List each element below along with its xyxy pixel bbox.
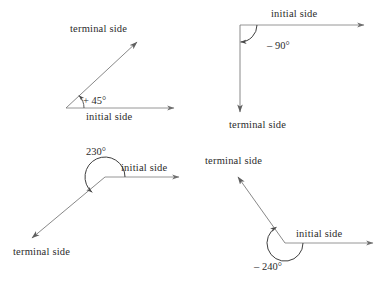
terminal-side-label-2: terminal side — [229, 119, 286, 130]
diagram-negative-240 — [238, 177, 373, 261]
initial-side-label-3: initial side — [121, 162, 167, 173]
terminal-side-ray — [238, 177, 285, 243]
terminal-side-label-3: terminal side — [13, 246, 70, 257]
angle-label-1: + 45° — [83, 95, 106, 106]
angle-diagrams-svg — [0, 0, 382, 282]
initial-side-label-1: initial side — [86, 111, 132, 122]
angle-label-2: – 90° — [267, 40, 290, 51]
rotation-arc — [85, 157, 125, 192]
diagram-negative-90 — [240, 25, 364, 112]
initial-side-label-4: initial side — [296, 228, 342, 239]
rotation-arc — [241, 25, 257, 42]
angle-diagrams-figure: terminal side + 45° initial side initial… — [0, 0, 382, 282]
angle-label-3: 230° — [86, 146, 106, 157]
terminal-side-ray — [32, 177, 105, 238]
terminal-side-label-1: terminal side — [70, 23, 127, 34]
initial-side-label-2: initial side — [271, 8, 317, 19]
angle-label-4: – 240° — [254, 261, 282, 272]
terminal-side-label-4: terminal side — [205, 155, 262, 166]
